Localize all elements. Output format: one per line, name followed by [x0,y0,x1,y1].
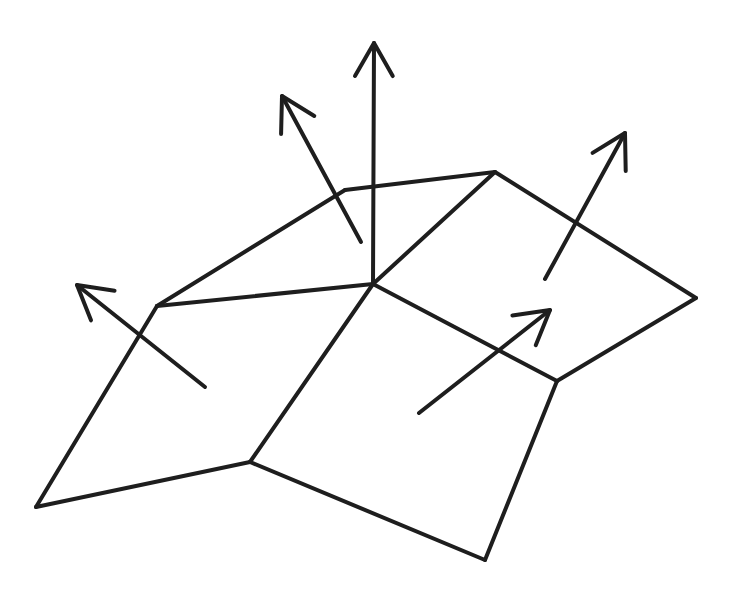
mesh-edge-AF [36,462,250,507]
mesh-normals-diagram [0,0,730,594]
face-normal-bottom-right-arrow-icon [419,310,550,413]
mesh-edge-DE [373,172,495,284]
mesh-edge-FI [250,462,485,560]
mesh-edge-GH [557,298,696,381]
mesh-edge-EH [373,284,557,381]
mesh-edge-CD [345,172,495,190]
vertex-normal-center-arrow-icon [355,43,393,284]
normal-vectors [77,43,626,413]
diagram-svg [0,0,730,594]
mesh-edge-EF [250,284,373,462]
face-normal-bottom-left-arrow-icon [77,285,205,387]
mesh-edges [36,172,696,560]
face-normal-top-right-arrow-icon [545,133,626,279]
mesh-edge-HI [485,381,557,560]
